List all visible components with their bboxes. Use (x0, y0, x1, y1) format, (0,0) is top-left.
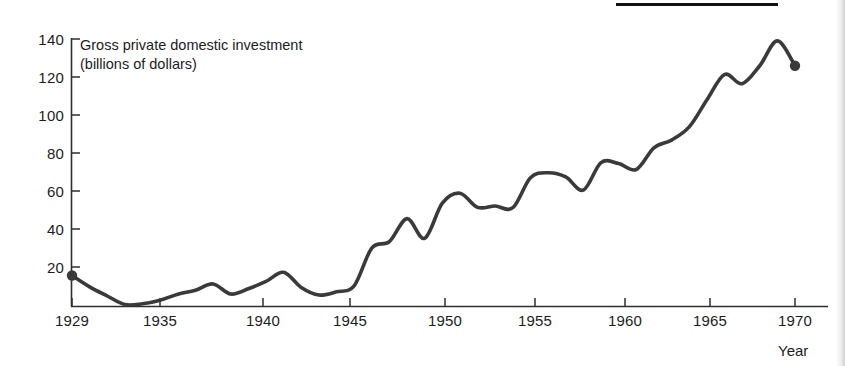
chart-title-line1: Gross private domestic investment (80, 37, 302, 53)
x-tick-label-1945: 1945 (320, 312, 380, 329)
y-tick-label-140: 140 (20, 31, 64, 48)
chart-title-line2: (billions of dollars) (80, 55, 302, 74)
x-tick-label-1965: 1965 (680, 312, 740, 329)
end-point-marker (790, 61, 800, 71)
x-tick-label-1935: 1935 (130, 312, 190, 329)
x-axis-title: Year (778, 342, 808, 359)
investment-curve (72, 41, 795, 305)
start-point-marker (67, 270, 77, 280)
x-tick-marks (72, 298, 795, 306)
x-tick-label-1929: 1929 (42, 312, 102, 329)
y-tick-label-100: 100 (20, 107, 64, 124)
y-tick-marks (72, 39, 81, 267)
chart-title: Gross private domestic investment (billi… (80, 36, 302, 74)
x-tick-label-1970: 1970 (765, 312, 825, 329)
x-tick-label-1955: 1955 (505, 312, 565, 329)
y-tick-label-60: 60 (20, 183, 64, 200)
x-tick-label-1960: 1960 (595, 312, 655, 329)
chart-figure: 140 120 100 80 60 40 20 1929 1935 1940 1… (0, 0, 845, 366)
y-tick-label-80: 80 (20, 145, 64, 162)
x-tick-label-1940: 1940 (233, 312, 293, 329)
y-tick-label-40: 40 (20, 221, 64, 238)
y-tick-label-20: 20 (20, 259, 64, 276)
x-tick-label-1950: 1950 (415, 312, 475, 329)
y-tick-label-120: 120 (20, 69, 64, 86)
